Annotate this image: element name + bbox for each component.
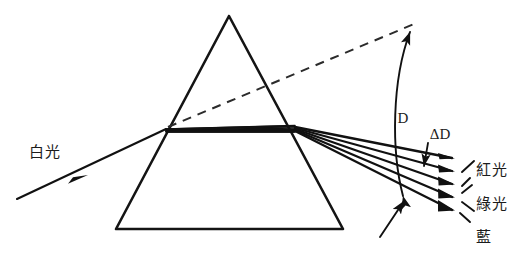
blue-ray-label: 藍	[476, 228, 492, 246]
leader-red	[462, 161, 474, 172]
orange-ray-arrowhead	[438, 165, 455, 173]
leader-red-2	[462, 178, 470, 186]
leader-green	[462, 185, 472, 193]
angle-D-label: D	[398, 110, 409, 126]
leader-blue-2	[460, 213, 470, 222]
blue-ray-arrowhead	[438, 189, 455, 199]
angle-D-lower-arm	[380, 201, 404, 237]
violet-ray-arrowhead	[438, 200, 455, 212]
green-ray-label: 綠光	[476, 195, 507, 213]
prism-triangle	[116, 16, 343, 229]
dashed-original-direction	[168, 24, 414, 127]
undeviated-dashed-line	[168, 24, 414, 127]
red-ray-label: 紅光	[476, 161, 507, 179]
angle-deltaD-annotation: ΔD	[424, 126, 450, 166]
green-ray-arrowhead	[438, 177, 455, 186]
internal-beam	[166, 126, 295, 132]
red-ray-arrowhead	[438, 153, 455, 159]
incident-beam-label: 白光	[29, 143, 60, 161]
angle-D-lower-pointer	[380, 201, 404, 237]
angle-deltaD-pointer	[424, 143, 428, 166]
angle-deltaD-label: ΔD	[430, 126, 451, 142]
angle-D-annotation: D	[395, 32, 410, 196]
diagram-canvas: D ΔD 白光 紅光 綠光 藍	[0, 0, 512, 255]
incident-ray-group	[17, 129, 166, 199]
prism-outline	[116, 16, 343, 229]
prism-dispersion-figure: D ΔD 白光 紅光 綠光 藍	[0, 0, 512, 255]
leader-blue	[462, 202, 474, 211]
label-leader-lines	[460, 161, 474, 222]
incident-ray-arrowhead	[68, 175, 88, 184]
incident-ray	[17, 129, 166, 199]
